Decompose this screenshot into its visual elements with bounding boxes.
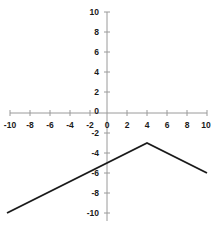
x-tick-label-0: 0: [96, 121, 118, 130]
y-tick-label--8: -8: [77, 189, 99, 198]
x-tick-label-2: 2: [116, 121, 138, 130]
chart-container: -10 -8 -6 -4 -2 0 2 4 6 8 10 10 8 6 4 2 …: [0, 0, 212, 246]
y-tick-label--6: -6: [77, 169, 99, 178]
x-tick-label-10: 10: [195, 121, 212, 130]
y-tick-label-4: 4: [77, 68, 99, 77]
y-tick-label-0: 0: [77, 107, 99, 116]
y-tick-label--10: -10: [77, 209, 99, 218]
y-tick-label-10: 10: [77, 8, 99, 17]
y-tick-label--4: -4: [77, 149, 99, 158]
x-tick-label--10: -10: [0, 121, 21, 130]
y-tick-label-8: 8: [77, 28, 99, 37]
y-tick-label--2: -2: [77, 129, 99, 138]
x-tick-label-4: 4: [136, 121, 158, 130]
y-tick-label-6: 6: [77, 48, 99, 57]
x-tick-label--8: -8: [19, 121, 41, 130]
x-tick-label--6: -6: [39, 121, 61, 130]
x-tick-label-6: 6: [156, 121, 178, 130]
y-tick-label-2: 2: [77, 88, 99, 97]
